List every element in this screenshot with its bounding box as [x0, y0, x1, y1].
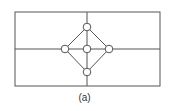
edge-bottom-left: [65, 49, 87, 72]
node-center: [83, 45, 91, 53]
nodes: [61, 23, 113, 76]
node-bottom: [83, 68, 91, 76]
node-top: [83, 23, 91, 31]
node-right: [105, 45, 113, 53]
edge-top-right: [87, 27, 109, 49]
figure-caption: (a): [0, 92, 169, 103]
edge-bottom-right: [87, 49, 109, 72]
edge-top-left: [65, 27, 87, 49]
node-left: [61, 45, 69, 53]
